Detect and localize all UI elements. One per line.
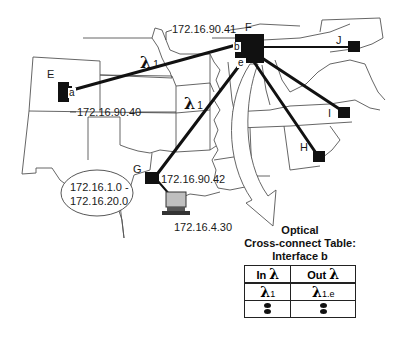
node-g <box>145 172 159 184</box>
table-header-row: In λ Out λ <box>245 266 356 284</box>
cell-out-ellipsis <box>291 301 356 318</box>
cell-out: λ1.e <box>291 283 356 301</box>
curved-arrow <box>232 64 277 226</box>
wavelength-index: 1 <box>270 289 275 299</box>
vertical-ellipsis-icon <box>264 302 272 315</box>
node-g-label: G <box>133 164 142 175</box>
node-j <box>348 41 360 52</box>
header-in: In λ <box>245 266 291 284</box>
node-j-label: J <box>336 35 342 46</box>
cell-in-ellipsis <box>245 301 291 318</box>
interface-b-label: b <box>233 42 241 52</box>
cross-connect-title: Optical Cross-connect Table: Interface b <box>240 224 360 263</box>
address-range-line2: 172.16.20.0 <box>70 196 128 207</box>
lambda-symbol: λ <box>140 53 151 72</box>
table-row: λ1 λ1.e <box>245 283 356 301</box>
header-out: Out λ <box>291 266 356 284</box>
address-range-ellipse <box>61 170 133 216</box>
title-line-1: Optical <box>240 224 360 237</box>
header-out-text: Out <box>307 269 326 281</box>
title-line-3: Interface b <box>240 250 360 263</box>
node-h <box>313 151 325 162</box>
address-f-b: 172.16.90.41 <box>172 24 236 35</box>
interface-e-label: e <box>237 58 245 68</box>
wavelength-index: 1.e <box>322 289 335 299</box>
header-in-text: In <box>256 269 266 281</box>
wavelength-index: 1 <box>197 100 203 111</box>
lambda-symbol: λ <box>260 284 270 300</box>
computer-icon <box>162 192 190 215</box>
lambda-symbol: λ <box>269 266 279 282</box>
node-i <box>338 107 350 118</box>
vertical-ellipsis-icon <box>319 302 327 315</box>
cross-connect-table: In λ Out λ λ1 λ1.e <box>244 265 356 318</box>
address-g: 172.16.90.42 <box>161 174 225 185</box>
lambda-symbol: λ <box>184 94 195 113</box>
title-line-2: Cross-connect Table: <box>240 237 360 250</box>
node-i-label: I <box>328 108 331 119</box>
lambda-symbol: λ <box>312 284 322 300</box>
wavelength-index: 1 <box>153 59 159 70</box>
cell-in: λ1 <box>245 283 291 301</box>
link-g-f <box>155 62 242 177</box>
address-range-line1: 172.16.1.0 - <box>70 182 129 193</box>
address-e-a: 172.16.90.40 <box>77 107 141 118</box>
leader-lines <box>70 30 236 112</box>
link-f-i <box>262 58 344 112</box>
interface-a-label: a <box>68 88 76 98</box>
node-f-label: F <box>245 22 252 33</box>
lambda-symbol: λ <box>329 266 339 282</box>
wavelength-label-g-f: λ1 <box>184 96 203 112</box>
table-row <box>245 301 356 318</box>
address-host: 172.16.4.30 <box>174 222 232 233</box>
node-h-label: H <box>300 142 308 153</box>
wavelength-label-e-f: λ1 <box>140 55 159 71</box>
node-e-label: E <box>47 69 54 80</box>
